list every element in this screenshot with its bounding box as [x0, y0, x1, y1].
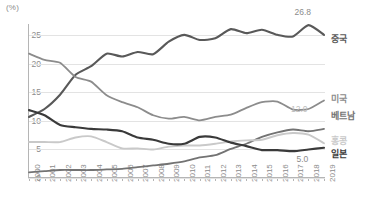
- series-line: [29, 110, 324, 151]
- plot-area: [28, 24, 325, 178]
- series-line: [29, 133, 324, 150]
- x-axis-tick-label: 2019: [328, 164, 337, 182]
- series-label-일본: 일본: [331, 147, 347, 160]
- y-axis-unit-label: (%): [6, 3, 19, 12]
- data-label-5.0: 5.0: [296, 154, 308, 164]
- series-label-홍콩: 홍콩: [331, 134, 347, 147]
- data-label-12.0: 12.0: [291, 104, 308, 114]
- series-line: [29, 54, 324, 121]
- line-chart: (%) 0510152025 2000200120022003200420052…: [0, 0, 373, 223]
- series-label-중국: 중국: [331, 32, 347, 45]
- grid-line: [28, 178, 325, 179]
- series-lines: [28, 24, 325, 178]
- data-label-26.8: 26.8: [294, 7, 311, 17]
- series-label-베트남: 베트남: [331, 109, 355, 122]
- series-label-미국: 미국: [331, 92, 347, 105]
